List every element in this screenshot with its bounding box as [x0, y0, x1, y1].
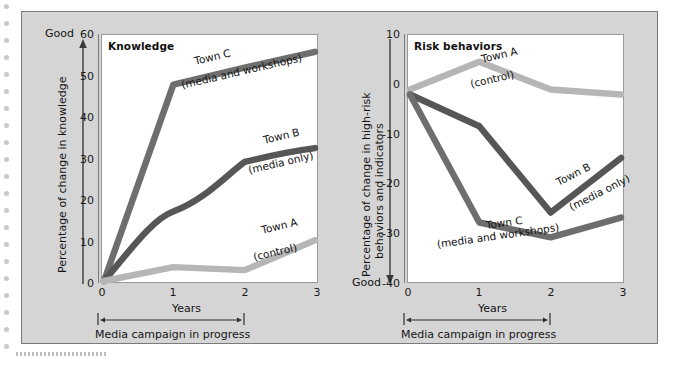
campaign-annotation-right: Media campaign in progress	[401, 328, 556, 341]
y-tick-left-40: 40	[68, 111, 94, 124]
y-tick-right-m20: -20	[374, 177, 400, 190]
x-tick-right-0: 0	[400, 286, 416, 299]
y-axis-spine-right	[404, 34, 405, 283]
x-tick-left-2: 2	[237, 286, 253, 299]
figure-panel: Percentage of change in knowledge Good 6…	[21, 11, 658, 344]
y-tick-right-0: 0	[374, 78, 400, 91]
figure-root: Percentage of change in knowledge Good 6…	[0, 0, 678, 367]
x-tick-right-3: 3	[615, 286, 631, 299]
y-tick-left-30: 30	[68, 153, 94, 166]
decorative-dotted-line	[16, 352, 108, 356]
chart-risk-behaviors: Percentage of change in high-risk behavi…	[352, 12, 659, 345]
x-tick-right-1: 1	[471, 286, 487, 299]
chart-knowledge: Percentage of change in knowledge Good 6…	[22, 12, 352, 345]
x-tick-right-2: 2	[543, 286, 559, 299]
series-line-town-b	[104, 148, 315, 281]
y-tick-right-10: 10	[374, 28, 400, 41]
y-axis-spine-left	[98, 34, 99, 283]
y-tick-left-0: 0	[68, 277, 94, 290]
y-tick-right-m30: -30	[374, 227, 400, 240]
good-direction-arrow-down	[384, 39, 396, 284]
y-tick-left-10: 10	[68, 236, 94, 249]
y-tick-left-60: 60	[68, 28, 94, 41]
x-tick-left-0: 0	[94, 286, 110, 299]
y-tick-right-m10: -10	[374, 128, 400, 141]
x-tick-left-1: 1	[165, 286, 181, 299]
decorative-dot-rail	[4, 4, 10, 356]
series-line-town-a	[410, 62, 621, 95]
y-tick-right-m40: -40	[374, 277, 400, 290]
campaign-annotation-left: Media campaign in progress	[95, 328, 250, 341]
x-tick-left-3: 3	[309, 286, 325, 299]
y-tick-left-20: 20	[68, 194, 94, 207]
plot-title-knowledge: Knowledge	[108, 40, 174, 52]
campaign-bracket-left	[96, 312, 246, 326]
y-axis-title-risk-line1: Percentage of change in high-risk	[360, 92, 373, 277]
campaign-bracket-right	[402, 312, 552, 326]
y-tick-left-50: 50	[68, 70, 94, 83]
